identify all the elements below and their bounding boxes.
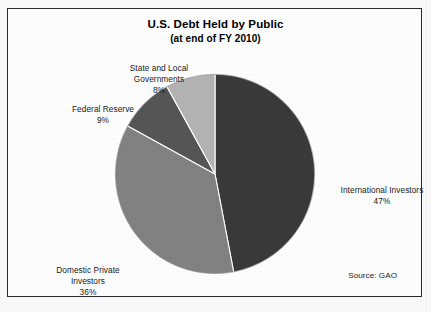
title-block: U.S. Debt Held by Public (at end of FY 2… [8,18,423,44]
slice-label-international-name: International Investors [341,185,424,195]
pie-slice [215,74,315,272]
slice-label-domestic-private-name: Domestic Private Investors [56,265,120,286]
source-note: Source: GAO [348,271,397,280]
slice-label-federal-reserve-pct: 9% [50,115,156,126]
slice-label-federal-reserve-name: Federal Reserve [72,104,134,114]
figure-root: U.S. Debt Held by Public (at end of FY 2… [0,0,431,312]
chart-frame: U.S. Debt Held by Public (at end of FY 2… [7,8,422,297]
slice-label-international: International Investors 47% [330,174,431,218]
slice-label-state-local-name: State and Local Governments [130,63,188,84]
slice-label-international-pct: 47% [330,196,431,207]
slice-label-federal-reserve: Federal Reserve 9% [50,93,156,137]
slice-label-domestic-private: Domestic Private Investors 36% [32,254,144,309]
chart-title: U.S. Debt Held by Public [8,18,423,32]
chart-subtitle: (at end of FY 2010) [8,33,423,45]
slice-label-domestic-private-pct: 36% [32,287,144,298]
